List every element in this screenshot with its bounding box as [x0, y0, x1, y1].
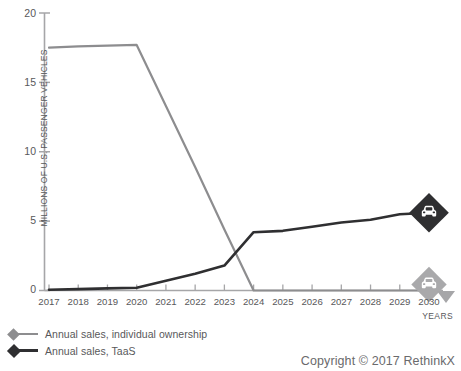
series-line-taas: [49, 213, 429, 290]
x-tick-label-2017: 2017: [34, 296, 64, 307]
legend-item-individual-ownership[interactable]: Annual sales, individual ownership: [8, 325, 207, 342]
x-tick-label-2024: 2024: [239, 296, 269, 307]
legend-marker-taas: [8, 344, 40, 358]
legend-label-individual: Annual sales, individual ownership: [45, 328, 207, 340]
chart-legend: Annual sales, individual ownership Annua…: [8, 325, 207, 359]
x-tick-label-2022: 2022: [180, 296, 210, 307]
x-tick-label-2025: 2025: [268, 296, 298, 307]
x-tick-label-2021: 2021: [151, 296, 181, 307]
x-tick-label-2026: 2026: [297, 296, 327, 307]
legend-marker-individual: [8, 327, 40, 341]
diamond-icon: [7, 328, 20, 341]
x-axis-title: YEARS: [422, 311, 453, 321]
chart-series-group: [49, 45, 429, 291]
x-tick-label-2018: 2018: [63, 296, 93, 307]
y-tick-label-10: 10: [14, 145, 36, 157]
x-tick-label-2028: 2028: [356, 296, 386, 307]
x-tick-label-2023: 2023: [209, 296, 239, 307]
y-axis-title: MILLIONS OF U.S. PASSENGER VEHICLES: [39, 0, 49, 278]
copyright-notice: Copyright © 2017 RethinkX: [301, 354, 455, 368]
y-tick-label-20: 20: [14, 7, 36, 19]
chart-axes: [39, 13, 443, 291]
x-tick-label-2027: 2027: [326, 296, 356, 307]
legend-item-taas[interactable]: Annual sales, TaaS: [8, 342, 207, 359]
y-tick-label-15: 15: [14, 76, 36, 88]
chart-figure: [0, 0, 461, 371]
x-tick-label-2030: 2030: [414, 296, 444, 307]
series-line-individual-ownership: [49, 45, 429, 291]
x-tick-label-2019: 2019: [92, 296, 122, 307]
taas-endpoint-badge: [409, 193, 449, 233]
legend-label-taas: Annual sales, TaaS: [45, 345, 136, 357]
diamond-icon: [7, 343, 21, 357]
y-tick-label-0: 0: [14, 283, 36, 295]
x-tick-label-2029: 2029: [385, 296, 415, 307]
y-tick-label-5: 5: [14, 214, 36, 226]
x-tick-label-2020: 2020: [122, 296, 152, 307]
